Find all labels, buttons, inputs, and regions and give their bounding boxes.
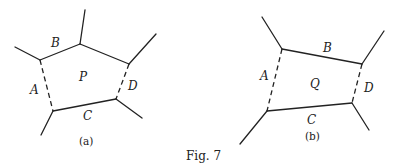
edge-label-c-b: C bbox=[307, 113, 316, 127]
region-label-p: P bbox=[78, 70, 88, 84]
edge-d-dashed-b bbox=[352, 64, 362, 103]
stub-a-3 bbox=[129, 34, 156, 64]
figure-caption: Fig. 7 bbox=[186, 149, 221, 163]
edge-label-a-a: A bbox=[29, 83, 39, 97]
edge-b-b bbox=[282, 49, 362, 64]
edge-a-dashed-a bbox=[40, 60, 53, 111]
panel-b: B A Q D C (b) bbox=[240, 17, 384, 144]
panel-sublabel-a: (a) bbox=[79, 135, 93, 147]
region-label-q: Q bbox=[310, 77, 320, 91]
edge-a-dashed-b bbox=[267, 49, 282, 111]
stub-b-4 bbox=[240, 111, 267, 144]
edge-top-right-a bbox=[80, 44, 129, 64]
edge-label-b-b: B bbox=[322, 41, 332, 55]
stub-b-3 bbox=[352, 103, 369, 130]
edge-label-a-b: A bbox=[259, 69, 269, 83]
panel-sublabel-b: (b) bbox=[305, 130, 320, 142]
stub-a-1 bbox=[15, 47, 40, 60]
stub-b-1 bbox=[262, 17, 282, 49]
panel-a: B P A D C (a) bbox=[15, 10, 156, 147]
edge-label-d-b: D bbox=[363, 81, 374, 95]
edge-label-b-a: B bbox=[50, 36, 60, 50]
stub-b-2 bbox=[362, 31, 384, 64]
edge-b-left-a bbox=[40, 44, 80, 60]
stub-a-5 bbox=[41, 111, 53, 135]
figure-7-diagram: B P A D C (a) B A Q D C (b) Fig. 7 bbox=[0, 0, 395, 163]
stub-a-2 bbox=[80, 10, 85, 44]
stub-a-4 bbox=[116, 99, 142, 118]
edge-c-b bbox=[267, 103, 352, 111]
edge-label-c-a: C bbox=[83, 109, 92, 123]
edge-label-d-a: D bbox=[127, 79, 138, 93]
